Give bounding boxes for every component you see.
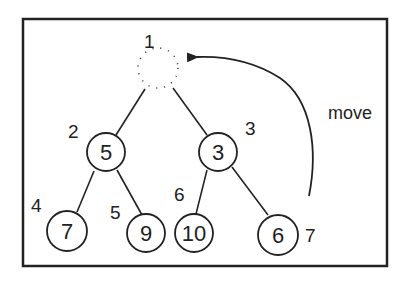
tree-node: 10 (175, 214, 213, 252)
index-label-4: 4 (31, 195, 42, 216)
move-label: move (328, 103, 372, 123)
index-label-5: 5 (110, 202, 121, 223)
node-value: 6 (272, 223, 284, 248)
edge-2-4 (77, 171, 94, 212)
root-node-empty (138, 48, 178, 88)
index-label-6: 6 (174, 184, 185, 205)
tree-node: 9 (127, 214, 165, 252)
node-value: 7 (61, 219, 73, 244)
tree-node: 3 (199, 133, 237, 171)
node-value: 10 (182, 221, 206, 246)
index-label-1: 1 (144, 31, 155, 52)
node-value: 3 (212, 140, 224, 165)
index-label-3: 3 (245, 118, 256, 139)
edge-2-5 (117, 170, 142, 215)
heap-diagram: 1 5 2 3 3 7 4 9 5 10 6 6 7 move (0, 0, 408, 284)
edge-3-7 (232, 167, 268, 215)
node-value: 5 (100, 140, 112, 165)
edge-1-3 (173, 88, 207, 135)
tree-node: 6 (258, 215, 298, 255)
index-label-2: 2 (68, 121, 79, 142)
tree-node: 7 (47, 211, 87, 251)
index-label-7: 7 (305, 225, 316, 246)
node-value: 9 (140, 221, 152, 246)
tree-node: 5 (87, 133, 125, 171)
edge-1-2 (116, 89, 145, 135)
edge-3-6 (196, 170, 207, 214)
